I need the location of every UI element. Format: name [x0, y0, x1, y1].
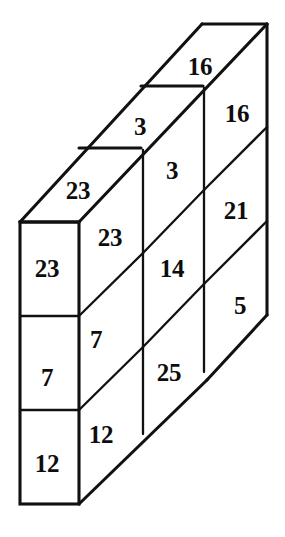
- label-middle-face-lower: 25: [157, 360, 181, 385]
- label-left-face-bottom: 12: [89, 422, 113, 447]
- label-middle-face-center: 14: [160, 256, 184, 281]
- label-front-face-bottom: 12: [35, 451, 59, 476]
- label-left-face-mid: 7: [90, 327, 102, 352]
- label-front-face-top: 23: [35, 256, 59, 281]
- figure-root: 16 16 3 3 21 23 23 23 14 5 7 7 25 12 12: [0, 0, 285, 537]
- label-right-face-upper-mid: 21: [224, 198, 248, 223]
- label-right-face-lower: 5: [234, 293, 246, 318]
- label-middle-face-upper-mid: 23: [98, 225, 122, 250]
- label-middle-face-top: 3: [166, 158, 178, 183]
- label-front-face-mid: 7: [41, 365, 53, 390]
- label-right-face-top: 16: [225, 101, 249, 126]
- label-top-step-far: 16: [188, 54, 212, 79]
- label-top-step-mid: 3: [134, 114, 146, 139]
- label-top-step-near: 23: [66, 178, 90, 203]
